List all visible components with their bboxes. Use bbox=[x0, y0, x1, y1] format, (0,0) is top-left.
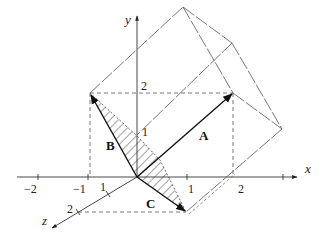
vector-c-label: C bbox=[146, 196, 155, 211]
vector-a-label: A bbox=[199, 128, 209, 143]
diagram-canvas: x y z −2 −1 1 2 1 2 1 2 A B C bbox=[0, 0, 319, 241]
x-tick-label: −1 bbox=[73, 182, 86, 196]
vector-diagram: x y z −2 −1 1 2 1 2 1 2 A B C bbox=[0, 0, 319, 241]
z-tick-label: 2 bbox=[67, 202, 73, 216]
x-tick-label: −2 bbox=[24, 182, 37, 196]
box-edges bbox=[90, 7, 282, 212]
hatched-region bbox=[90, 93, 186, 212]
z-axis bbox=[52, 177, 137, 228]
y-tick-label: 2 bbox=[141, 79, 147, 93]
box-edge-double bbox=[189, 174, 235, 214]
z-axis-label: z bbox=[41, 213, 47, 228]
x-tick-label: 2 bbox=[238, 182, 244, 196]
y-axis-label: y bbox=[123, 12, 131, 27]
vector-b-label: B bbox=[106, 138, 115, 153]
y-tick-label: 1 bbox=[142, 125, 148, 139]
x-axis-label: x bbox=[304, 161, 311, 176]
x-tick-label: 1 bbox=[188, 182, 194, 196]
z-tick-label: 1 bbox=[100, 180, 106, 194]
vector-a-arrow bbox=[137, 94, 232, 177]
